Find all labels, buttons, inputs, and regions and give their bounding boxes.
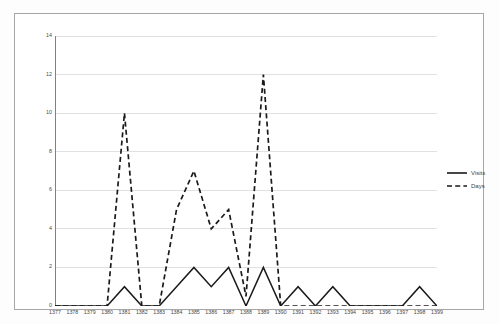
y-tick-label: 6 [49,187,52,192]
x-tick-label: 1377 [49,310,61,315]
x-tick-label: 1398 [414,310,426,315]
legend-label: Days [471,183,485,189]
y-tick-label: 8 [49,149,52,154]
x-tick-label: 1399 [431,310,443,315]
y-axis-tick-labels: 02468101214 [31,36,52,306]
x-tick-label: 1393 [327,310,339,315]
x-tick-label: 1395 [362,310,374,315]
y-tick-label: 14 [46,33,52,38]
x-tick-label: 1382 [136,310,148,315]
x-tick-label: 1384 [171,310,183,315]
legend-item-visits[interactable]: Visits [447,166,499,179]
plot-inner [55,36,437,306]
chart-canvas [55,36,437,306]
y-tick-label: 0 [49,303,52,308]
y-tick-label: 4 [49,226,52,231]
x-tick-label: 1397 [396,310,408,315]
chart-screenshot: 02468101214 1377137813791380138113821383… [0,0,499,324]
y-tick-label: 12 [46,72,52,77]
legend-swatch-dashed-icon [447,182,467,190]
x-tick-label: 1379 [84,310,96,315]
x-tick-label: 1394 [344,310,356,315]
x-tick-label: 1392 [310,310,322,315]
legend-item-days[interactable]: Days [447,179,499,192]
x-tick-label: 1387 [223,310,235,315]
y-tick-label: 10 [46,110,52,115]
plot-area [55,36,437,306]
x-tick-label: 1383 [153,310,165,315]
legend-swatch-solid-icon [447,169,467,177]
x-tick-label: 1385 [188,310,200,315]
chart-frame: 02468101214 1377137813791380138113821383… [14,13,484,310]
legend-label: Visits [471,170,485,176]
chart-legend: VisitsDays [447,166,499,192]
x-tick-label: 1388 [240,310,252,315]
x-tick-label: 1380 [101,310,113,315]
x-tick-label: 1378 [66,310,78,315]
x-tick-label: 1390 [275,310,287,315]
x-tick-label: 1386 [205,310,217,315]
gridlines-group [55,36,437,306]
x-tick-label: 1389 [257,310,269,315]
y-tick-label: 2 [49,264,52,269]
x-axis-tick-labels: 1377137813791380138113821383138413851386… [55,310,437,322]
x-tick-label: 1396 [379,310,391,315]
x-tick-label: 1391 [292,310,304,315]
x-tick-label: 1381 [119,310,131,315]
